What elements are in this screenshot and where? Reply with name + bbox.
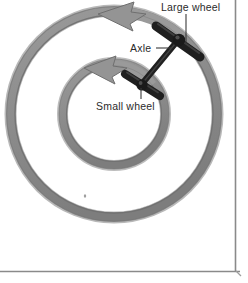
label-axle: Axle xyxy=(130,42,151,54)
large-wheel xyxy=(7,7,222,222)
wheel-axle-diagram: Large wheel Axle Small wheel xyxy=(0,0,248,283)
label-large-wheel: Large wheel xyxy=(161,1,220,13)
small-wheel-clamp-hub xyxy=(136,79,147,90)
label-small-wheel: Small wheel xyxy=(96,100,155,112)
large-wheel-clamp-hub-highlight xyxy=(175,35,179,39)
dust-speck-icon xyxy=(84,194,86,198)
large-wheel-clamp-hub xyxy=(173,34,185,46)
small-wheel-clamp-hub-highlight xyxy=(139,81,143,85)
diagram-canvas xyxy=(0,0,248,283)
